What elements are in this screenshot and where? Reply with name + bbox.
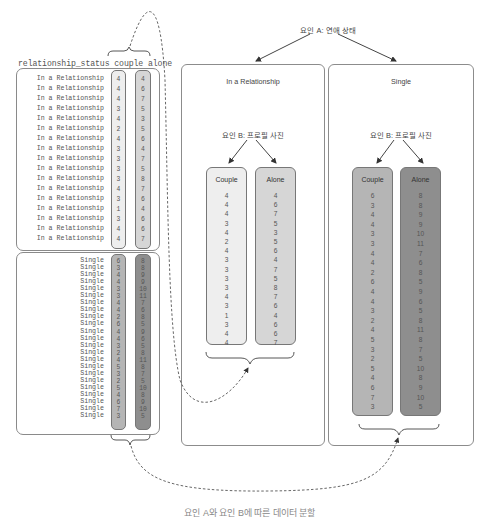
brace-icon [108, 47, 150, 56]
brace-icon [359, 424, 439, 435]
dashed-connector [131, 438, 398, 491]
figure-caption: 요인 A와 요인 B에 따른 데이터 분할 [120, 506, 380, 519]
dashed-connector [130, 12, 248, 403]
brace-icon [206, 352, 294, 364]
arrow-icon [229, 34, 423, 163]
brace-icon [111, 435, 150, 445]
